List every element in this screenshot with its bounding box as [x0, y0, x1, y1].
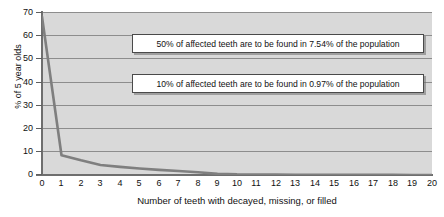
x-tick-label: 2	[73, 179, 89, 188]
x-tick-label: 1	[53, 179, 69, 188]
x-tick-label: 12	[268, 179, 284, 188]
annotation-box-50-percent: 50% of affected teeth are to be found in…	[132, 34, 424, 53]
x-tick-label: 0	[34, 179, 50, 188]
annotation-box-10-percent: 10% of affected teeth are to be found in…	[132, 74, 424, 93]
chart-figure: 70 60 50 40 30 20 10 0 0 1 2 3 4 5 6 7 8…	[0, 0, 444, 217]
x-tick-label: 18	[385, 179, 401, 188]
x-tick-label: 16	[346, 179, 362, 188]
y-tick-label: 70	[0, 8, 33, 17]
y-tick-label: 10	[0, 147, 33, 156]
x-tick-label: 4	[112, 179, 128, 188]
annotation-text: 10% of affected teeth are to be found in…	[156, 79, 399, 89]
x-tick-label: 6	[151, 179, 167, 188]
x-tick-label: 14	[307, 179, 323, 188]
x-tick-label: 11	[248, 179, 264, 188]
x-tick-label: 5	[131, 179, 147, 188]
x-tick-label: 20	[424, 179, 440, 188]
x-tick-label: 19	[404, 179, 420, 188]
x-tick-label: 7	[170, 179, 186, 188]
x-tick-label: 15	[326, 179, 342, 188]
annotation-text: 50% of affected teeth are to be found in…	[156, 39, 399, 49]
x-tick-label: 17	[365, 179, 381, 188]
x-tick-label: 9	[209, 179, 225, 188]
x-tick-label: 13	[287, 179, 303, 188]
y-tick-label: 0	[0, 170, 33, 179]
x-tick-label: 3	[92, 179, 108, 188]
y-axis-title: % of 5 year olds	[14, 21, 23, 133]
x-tick-label: 10	[229, 179, 245, 188]
x-axis-title: Number of teeth with decayed, missing, o…	[42, 196, 432, 206]
x-tick-label: 8	[190, 179, 206, 188]
